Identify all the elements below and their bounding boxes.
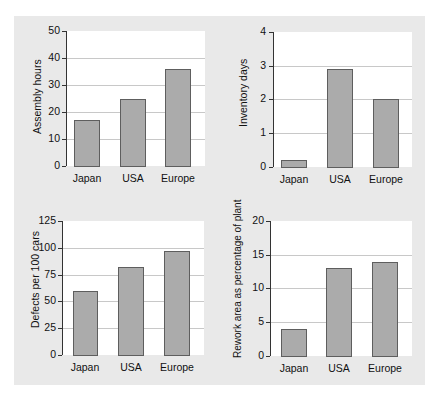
y-axis (66, 31, 67, 166)
y-tick (269, 133, 273, 134)
y-tick-label: 4 (240, 25, 266, 37)
bar-usa (120, 99, 146, 167)
x-label-japan: Japan (269, 173, 319, 185)
y-tick (62, 112, 66, 113)
y-tick (62, 166, 66, 167)
y-tick (266, 322, 270, 323)
y-tick (266, 356, 270, 357)
y-axis-label: Rework area as percentage of plant (232, 200, 243, 358)
x-label-japan: Japan (62, 172, 112, 184)
y-tick-label: 0 (240, 160, 266, 172)
y-tick (58, 328, 62, 329)
bar-usa (326, 268, 352, 357)
y-tick (269, 99, 273, 100)
y-tick (58, 221, 62, 222)
y-tick (58, 275, 62, 276)
y-tick (62, 58, 66, 59)
y-tick-label: 0 (30, 348, 56, 360)
x-label-europe: Europe (153, 172, 203, 184)
y-axis-label: Assembly hours (31, 59, 43, 134)
y-tick (269, 66, 273, 67)
x-label-europe: Europe (360, 362, 410, 374)
y-tick-label: 0 (34, 159, 60, 171)
x-label-usa: USA (106, 361, 156, 373)
bar-japan (74, 120, 100, 167)
x-label-japan: Japan (60, 361, 110, 373)
y-tick (58, 301, 62, 302)
y-tick-label: 125 (30, 214, 56, 226)
y-tick (266, 288, 270, 289)
y-tick (266, 221, 270, 222)
x-label-europe: Europe (361, 173, 411, 185)
y-tick (58, 355, 62, 356)
gridline (66, 58, 205, 59)
bar-usa (327, 69, 353, 168)
bar-europe (373, 99, 399, 168)
y-axis (62, 221, 63, 355)
x-label-usa: USA (315, 173, 365, 185)
y-tick (62, 31, 66, 32)
y-tick (62, 139, 66, 140)
gridline (270, 255, 412, 256)
y-tick (269, 32, 273, 33)
y-tick-label: 50 (34, 24, 60, 36)
y-axis-label: Inventory days (237, 59, 249, 127)
y-tick (266, 255, 270, 256)
bar-japan (281, 329, 307, 357)
gridline (62, 248, 204, 249)
y-axis (270, 221, 271, 356)
bar-japan (281, 160, 307, 168)
bar-japan (73, 291, 98, 356)
x-label-japan: Japan (269, 362, 319, 374)
y-axis (273, 32, 274, 167)
gridline (273, 66, 412, 67)
y-axis-label: Defects per 100 cars (29, 231, 41, 328)
x-label-usa: USA (108, 172, 158, 184)
bar-europe (165, 69, 191, 167)
y-tick (58, 248, 62, 249)
x-label-europe: Europe (152, 361, 202, 373)
bar-usa (118, 267, 144, 356)
bar-europe (164, 251, 190, 356)
y-tick (62, 85, 66, 86)
x-label-usa: USA (314, 362, 364, 374)
y-tick (269, 167, 273, 168)
y-tick-label: 1 (240, 126, 266, 138)
bar-europe (372, 262, 398, 357)
